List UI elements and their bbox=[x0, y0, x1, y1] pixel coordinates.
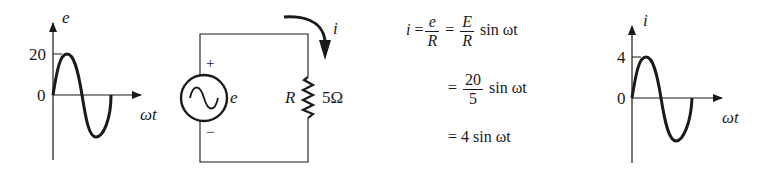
source-plus-sign: + bbox=[206, 56, 214, 71]
source-minus-sign: − bbox=[206, 125, 214, 140]
diagram-canvas bbox=[0, 0, 771, 173]
current-y-label: i bbox=[643, 12, 648, 29]
current-peak-tick-label: 4 bbox=[617, 49, 626, 66]
voltage-zero-tick-label: 0 bbox=[37, 87, 46, 104]
equation-line-3: = 4 sin ωt bbox=[448, 128, 511, 146]
eq1-tail: sin ωt bbox=[480, 21, 518, 38]
eq1-frac1-den: R bbox=[425, 32, 439, 50]
eq1-equals-1: = bbox=[414, 21, 423, 38]
eq1-frac1-num: e bbox=[425, 14, 439, 32]
current-sine-wave bbox=[632, 57, 692, 141]
eq2-frac-num: 20 bbox=[463, 72, 483, 90]
source-label: e bbox=[230, 89, 238, 106]
current-x-label: ωt bbox=[722, 109, 739, 126]
equation-line-2: = 205 sin ωt bbox=[448, 72, 527, 107]
resistor-zigzag-icon bbox=[303, 77, 313, 118]
voltage-plot bbox=[53, 23, 141, 160]
eq2-fraction: 205 bbox=[463, 72, 483, 107]
current-zero-tick-label: 0 bbox=[617, 90, 626, 107]
eq1-frac2-num: E bbox=[460, 14, 474, 32]
eq1-fraction-2: ER bbox=[460, 14, 474, 49]
current-label: i bbox=[333, 20, 338, 37]
eq2-equals: = bbox=[448, 79, 457, 96]
eq2-tail: sin ωt bbox=[489, 79, 527, 96]
current-plot bbox=[632, 26, 722, 163]
ac-source-sine-icon bbox=[181, 75, 227, 121]
voltage-y-label: e bbox=[62, 9, 70, 26]
eq1-frac2-den: R bbox=[460, 32, 474, 50]
eq1-lhs: i bbox=[406, 21, 410, 38]
voltage-x-label: ωt bbox=[140, 106, 157, 123]
eq1-equals-2: = bbox=[445, 21, 454, 38]
equation-line-1: i =eR = ER sin ωt bbox=[406, 14, 518, 49]
circuit bbox=[181, 17, 331, 162]
resistor-name: R bbox=[285, 89, 295, 106]
resistor-value: 5Ω bbox=[322, 89, 343, 106]
eq2-frac-den: 5 bbox=[463, 90, 483, 108]
voltage-peak-tick-label: 20 bbox=[29, 46, 46, 63]
eq1-fraction-1: eR bbox=[425, 14, 439, 49]
